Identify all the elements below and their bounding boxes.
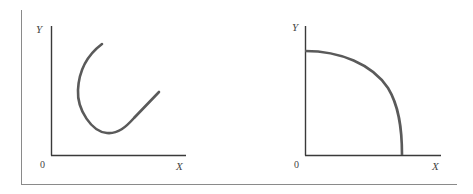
right-y-label: Y bbox=[292, 21, 300, 33]
left-y-label: Y bbox=[36, 23, 44, 35]
figure: Y X 0 Y X 0 bbox=[0, 0, 473, 194]
right-concave-curve bbox=[305, 51, 402, 155]
right-chart: Y X 0 bbox=[292, 21, 441, 172]
right-x-label: X bbox=[431, 160, 440, 172]
right-origin-label: 0 bbox=[294, 159, 299, 170]
left-chart: Y X 0 bbox=[36, 23, 186, 172]
left-x-label: X bbox=[175, 160, 184, 172]
left-u-curve bbox=[78, 44, 159, 133]
left-origin-label: 0 bbox=[40, 159, 45, 170]
